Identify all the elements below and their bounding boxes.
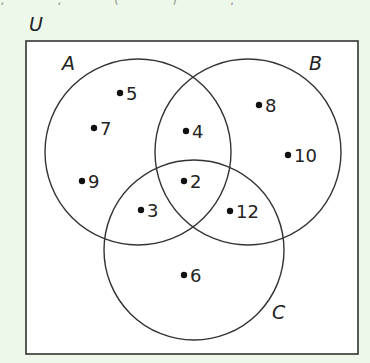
element-label-10: 10 bbox=[294, 145, 317, 166]
element-label-6: 6 bbox=[190, 265, 201, 286]
element-dot-7 bbox=[91, 125, 97, 131]
venn-diagram: U A B C 579423128106 bbox=[0, 0, 370, 363]
element-label-8: 8 bbox=[265, 95, 276, 116]
universal-set-label: U bbox=[29, 13, 43, 35]
element-label-4: 4 bbox=[192, 121, 203, 142]
element-label-7: 7 bbox=[100, 118, 111, 139]
element-dot-8 bbox=[256, 102, 262, 108]
set-a-label: A bbox=[60, 52, 75, 74]
element-label-9: 9 bbox=[88, 171, 99, 192]
element-dot-9 bbox=[79, 178, 85, 184]
element-dot-10 bbox=[285, 152, 291, 158]
element-label-2: 2 bbox=[190, 171, 201, 192]
set-c-label: C bbox=[272, 301, 286, 323]
universal-set-box bbox=[26, 41, 358, 354]
element-label-12: 12 bbox=[236, 201, 259, 222]
element-dot-12 bbox=[227, 208, 233, 214]
element-dot-6 bbox=[181, 272, 187, 278]
element-dot-4 bbox=[183, 128, 189, 134]
set-b-label: B bbox=[309, 52, 322, 74]
element-label-3: 3 bbox=[147, 200, 158, 221]
element-dot-2 bbox=[181, 178, 187, 184]
element-dot-5 bbox=[117, 90, 123, 96]
element-dot-3 bbox=[138, 207, 144, 213]
element-label-5: 5 bbox=[126, 83, 137, 104]
